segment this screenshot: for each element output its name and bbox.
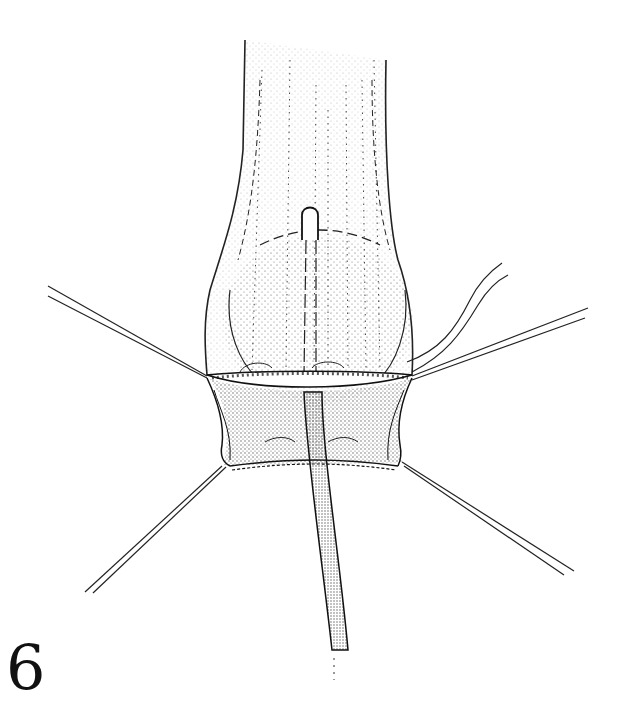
stay-suture-upper-left: [48, 286, 207, 378]
surgical-illustration: [0, 0, 629, 723]
stay-suture-lower-left: [85, 466, 226, 593]
figure-number: 6: [6, 637, 45, 699]
thread-pair-right: [407, 263, 508, 372]
stay-suture-lower-right: [402, 462, 574, 575]
